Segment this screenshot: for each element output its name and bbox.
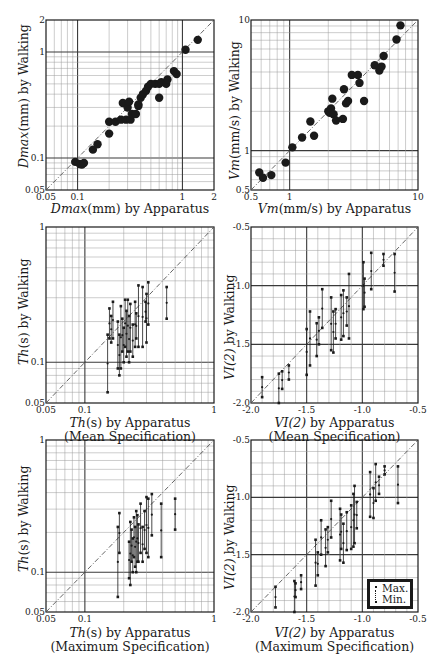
- range-min-marker: [117, 596, 120, 599]
- svg-text:0.05: 0.05: [25, 185, 45, 195]
- range-min-marker: [327, 551, 330, 554]
- data-point: [310, 132, 318, 140]
- p1-y-var: Dmax: [16, 132, 31, 168]
- p6-x-var: VI(2): [274, 625, 306, 640]
- range-max-marker: [353, 485, 356, 488]
- p2-y-rest: (mm/s) by Walking: [227, 41, 242, 159]
- range-min-marker: [353, 542, 356, 545]
- range-min-marker: [135, 337, 138, 340]
- range-max-marker: [362, 261, 365, 264]
- range-min-marker: [318, 343, 321, 346]
- range-max-marker: [106, 333, 109, 336]
- range-max-marker: [350, 504, 353, 507]
- range-min-marker: [135, 571, 138, 574]
- range-max-marker: [151, 493, 154, 496]
- range-max-marker: [340, 294, 343, 297]
- p4-x-axis-label: VI(2) by Apparatus (Mean Specification): [251, 416, 418, 444]
- range-max-marker: [345, 511, 348, 514]
- range-min-marker: [320, 553, 323, 556]
- svg-text:1: 1: [39, 47, 45, 57]
- svg-text:-1.0: -1.0: [354, 614, 372, 624]
- range-max-marker: [112, 300, 115, 303]
- data-point: [259, 174, 267, 182]
- data-point: [328, 94, 336, 102]
- range-max-marker: [122, 326, 125, 329]
- data-point: [298, 133, 306, 141]
- range-min-marker: [117, 367, 120, 370]
- range-max-marker: [369, 471, 372, 474]
- figure: 0.050.1120.050.1120.51100.51100.050.110.…: [0, 0, 446, 667]
- p6-y-var: VI(2): [222, 558, 237, 590]
- range-max-marker: [126, 298, 129, 301]
- range-max-marker: [309, 310, 312, 313]
- range-min-marker: [141, 346, 144, 349]
- range-max-marker: [137, 523, 140, 526]
- range-max-marker: [288, 364, 291, 367]
- p5-x-rest: (s) by Apparatus: [86, 625, 191, 640]
- range-min-marker: [124, 346, 127, 349]
- range-max-marker: [378, 475, 381, 478]
- range-max-marker: [294, 582, 297, 585]
- range-max-marker: [274, 585, 277, 588]
- svg-text:-0.5: -0.5: [409, 405, 427, 415]
- range-min-marker: [305, 374, 308, 377]
- range-min-marker: [137, 560, 140, 563]
- range-min-marker: [383, 473, 386, 476]
- p5-x-var: Th: [70, 625, 86, 640]
- range-min-marker: [281, 388, 284, 391]
- range-min-marker: [278, 402, 281, 405]
- svg-text:0.1: 0.1: [31, 567, 45, 577]
- range-max-marker: [355, 501, 358, 504]
- data-point: [125, 97, 133, 105]
- range-max-marker: [141, 286, 144, 289]
- p1-y-axis-label: Dmax(mm) by Walking: [16, 24, 31, 168]
- p2-diagonal: [251, 20, 418, 190]
- p1-y-rest: (mm) by Walking: [16, 24, 31, 131]
- range-min-marker: [137, 346, 140, 349]
- range-max-marker: [133, 516, 136, 519]
- range-max-marker: [174, 497, 177, 500]
- range-max-marker: [342, 289, 345, 292]
- range-max-marker: [330, 499, 333, 502]
- legend-range-marker-icon: [373, 585, 379, 605]
- p1-x-var: Dmax: [51, 201, 87, 216]
- range-min-marker: [332, 351, 335, 354]
- p3-x-var: Th: [70, 415, 86, 430]
- svg-text:0.5: 0.5: [236, 185, 251, 195]
- range-min-marker: [324, 565, 327, 568]
- range-max-marker: [397, 465, 400, 468]
- range-min-marker: [112, 337, 115, 340]
- svg-text:-1.0: -1.0: [354, 405, 372, 415]
- range-min-marker: [350, 548, 353, 551]
- svg-text:2: 2: [39, 15, 45, 25]
- range-min-marker: [382, 264, 385, 267]
- range-min-marker: [131, 355, 134, 358]
- p4-y-axis-label: VI(2) by Walking: [222, 274, 237, 380]
- range-max-marker: [145, 293, 148, 296]
- range-max-marker: [300, 574, 303, 577]
- range-max-marker: [131, 323, 134, 326]
- range-max-marker: [382, 253, 385, 256]
- svg-text:0.1: 0.1: [78, 614, 92, 624]
- p3-x-axis-label: Th(s) by Apparatus (Mean Specification): [46, 416, 214, 444]
- range-max-marker: [261, 376, 264, 379]
- range-min-marker: [309, 364, 312, 367]
- range-max-marker: [293, 580, 296, 583]
- range-max-marker: [305, 328, 308, 331]
- range-min-marker: [145, 552, 148, 555]
- p4-y-var: VI(2): [222, 348, 237, 380]
- svg-text:0.05: 0.05: [25, 398, 45, 408]
- range-min-marker: [108, 337, 111, 340]
- p5-x-sub: (Maximum Specification): [46, 640, 214, 654]
- range-min-marker: [397, 502, 400, 505]
- data-point: [93, 140, 101, 148]
- range-max-marker: [345, 296, 348, 299]
- range-min-marker: [128, 361, 131, 364]
- range-min-marker: [294, 596, 297, 599]
- p1-plot: 0.050.1120.050.112: [25, 15, 217, 202]
- range-max-marker: [374, 463, 377, 466]
- range-min-marker: [147, 323, 150, 326]
- data-point: [355, 79, 363, 87]
- range-min-marker: [363, 305, 366, 308]
- range-min-marker: [129, 350, 132, 353]
